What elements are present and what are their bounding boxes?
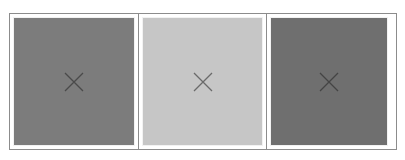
image-gallery <box>9 13 397 150</box>
image-placeholder-3[interactable] <box>271 18 387 145</box>
broken-image-x-icon <box>318 71 340 93</box>
image-card-2[interactable] <box>138 14 266 149</box>
image-card-3[interactable] <box>266 14 396 149</box>
image-placeholder-1[interactable] <box>14 18 134 145</box>
broken-image-x-icon <box>192 71 214 93</box>
image-placeholder-2[interactable] <box>143 18 262 145</box>
image-card-1[interactable] <box>10 14 138 149</box>
broken-image-x-icon <box>63 71 85 93</box>
